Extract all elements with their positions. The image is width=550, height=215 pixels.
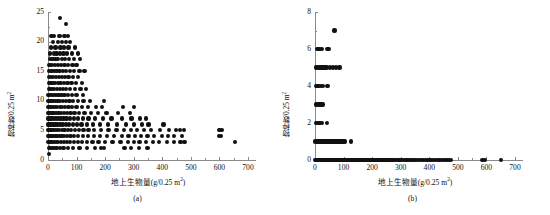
data-point bbox=[121, 105, 125, 109]
data-point bbox=[103, 140, 107, 144]
data-point bbox=[57, 34, 61, 38]
data-point bbox=[74, 105, 78, 109]
data-point bbox=[165, 140, 169, 144]
data-point bbox=[89, 111, 93, 115]
data-point bbox=[180, 134, 184, 138]
data-point bbox=[51, 40, 55, 44]
data-point bbox=[166, 134, 170, 138]
data-point bbox=[98, 122, 102, 126]
x-tick bbox=[458, 157, 459, 160]
data-point bbox=[71, 75, 75, 79]
data-point bbox=[80, 81, 84, 85]
data-point bbox=[66, 45, 70, 49]
x-tick-label: 0 bbox=[34, 163, 62, 172]
x-axis-label-b: 地上生物量(g/0.25 m2) bbox=[315, 176, 515, 187]
data-point bbox=[133, 134, 137, 138]
x-tick-label: 500 bbox=[444, 163, 472, 172]
data-point bbox=[81, 134, 85, 138]
data-point bbox=[320, 47, 324, 51]
data-point bbox=[77, 128, 81, 132]
y-tick-minor bbox=[315, 31, 317, 32]
data-point bbox=[126, 140, 130, 144]
x-tick-minor bbox=[91, 158, 92, 160]
data-point bbox=[74, 93, 78, 97]
data-point bbox=[76, 75, 80, 79]
data-point bbox=[79, 122, 83, 126]
data-point bbox=[100, 105, 104, 109]
data-point bbox=[92, 134, 96, 138]
data-point bbox=[86, 134, 90, 138]
x-tick bbox=[515, 157, 516, 160]
y-tick-label: 10 bbox=[22, 95, 44, 104]
x-tick bbox=[219, 157, 220, 160]
x-tick bbox=[77, 157, 78, 160]
data-point bbox=[84, 87, 88, 91]
y-tick-label: 15 bbox=[22, 66, 44, 75]
x-tick-label: 500 bbox=[177, 163, 205, 172]
data-point bbox=[61, 146, 65, 150]
data-point bbox=[92, 128, 96, 132]
data-point bbox=[135, 128, 139, 132]
data-point bbox=[321, 102, 325, 106]
data-point bbox=[112, 134, 116, 138]
data-point bbox=[167, 128, 171, 132]
data-point bbox=[483, 158, 487, 162]
data-point bbox=[129, 146, 133, 150]
data-point bbox=[449, 158, 453, 162]
data-point bbox=[88, 99, 92, 103]
data-point bbox=[72, 111, 76, 115]
data-point bbox=[120, 134, 124, 138]
y-tick-label: 5 bbox=[22, 125, 44, 134]
data-point bbox=[77, 69, 81, 73]
data-point bbox=[64, 22, 68, 26]
plot-area-a: 05101520250100200300400500600700 bbox=[48, 12, 248, 160]
data-point bbox=[76, 51, 80, 55]
data-point bbox=[66, 75, 70, 79]
data-point bbox=[145, 146, 149, 150]
data-point bbox=[161, 122, 165, 126]
x-tick-label: 400 bbox=[148, 163, 176, 172]
data-point bbox=[172, 140, 176, 144]
data-point bbox=[124, 122, 128, 126]
data-point bbox=[160, 134, 164, 138]
data-point bbox=[137, 146, 141, 150]
data-point bbox=[77, 111, 81, 115]
data-point bbox=[75, 122, 79, 126]
x-tick-minor bbox=[148, 158, 149, 160]
data-point bbox=[69, 81, 73, 85]
x-tick bbox=[134, 157, 135, 160]
data-point bbox=[80, 140, 84, 144]
data-point bbox=[74, 81, 78, 85]
data-point bbox=[233, 140, 237, 144]
x-tick-label: 200 bbox=[358, 163, 386, 172]
data-point bbox=[132, 140, 136, 144]
x-tick-label: 200 bbox=[91, 163, 119, 172]
x-tick-label: 600 bbox=[472, 163, 500, 172]
data-point bbox=[49, 45, 53, 49]
data-point bbox=[116, 111, 120, 115]
data-point bbox=[101, 116, 105, 120]
x-tick-label: 300 bbox=[387, 163, 415, 172]
y-axis-label-a: 物种数/0.25 m2 bbox=[6, 34, 17, 138]
data-point bbox=[349, 139, 353, 143]
data-point bbox=[182, 128, 186, 132]
data-point bbox=[93, 116, 97, 120]
y-tick-label: 4 bbox=[289, 81, 311, 90]
x-tick-minor bbox=[205, 158, 206, 160]
subcaption-b: (b) bbox=[275, 194, 550, 203]
panel-b: 物种数/0.25 m2 024680100200300400500600700 … bbox=[275, 0, 550, 215]
figure-scatter-pair: 物种数/0.25 m2 0510152025010020030040050060… bbox=[0, 0, 550, 215]
data-point bbox=[68, 40, 72, 44]
data-point bbox=[94, 105, 98, 109]
subcaption-a: (a) bbox=[0, 194, 275, 203]
data-point bbox=[82, 69, 86, 73]
x-tick-minor bbox=[119, 158, 120, 160]
data-point bbox=[70, 93, 74, 97]
data-point bbox=[85, 140, 89, 144]
data-point bbox=[105, 134, 109, 138]
data-point bbox=[327, 47, 331, 51]
data-point bbox=[99, 128, 103, 132]
data-point bbox=[142, 128, 146, 132]
x-axis-label-a: 地上生物量(g/0.25 m2) bbox=[48, 176, 248, 187]
x-tick-label: 100 bbox=[63, 163, 91, 172]
